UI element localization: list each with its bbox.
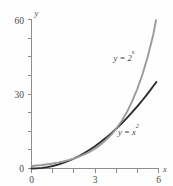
figure-container: 60 30 0 0 3 6 y x y = 2x y = x2 xyxy=(0,0,173,186)
label-quadratic-exponent: 2 xyxy=(136,122,139,129)
x-tick-label-0: 0 xyxy=(29,175,34,185)
svg-text:y = 2x: y = 2x xyxy=(113,48,135,63)
x-axis-label: x xyxy=(162,164,167,174)
y-tick-label-0: 0 xyxy=(19,164,24,174)
y-tick-label-30: 30 xyxy=(15,90,25,100)
curve-exponential xyxy=(32,20,157,166)
y-axis-label: y xyxy=(34,8,39,18)
x-tick-group xyxy=(32,169,159,173)
x-tick-label-3: 3 xyxy=(93,175,98,185)
y-tick-label-60: 60 xyxy=(15,16,25,26)
label-exponential: y = 2x xyxy=(113,48,135,63)
label-quadratic-text: y = x xyxy=(117,127,136,137)
growth-comparison-chart: 60 30 0 0 3 6 y x y = 2x y = x2 xyxy=(0,0,173,186)
x-tick-label-6: 6 xyxy=(156,175,161,185)
label-exponential-exponent: x xyxy=(131,48,135,55)
label-exponential-text: y = 2 xyxy=(113,53,133,63)
